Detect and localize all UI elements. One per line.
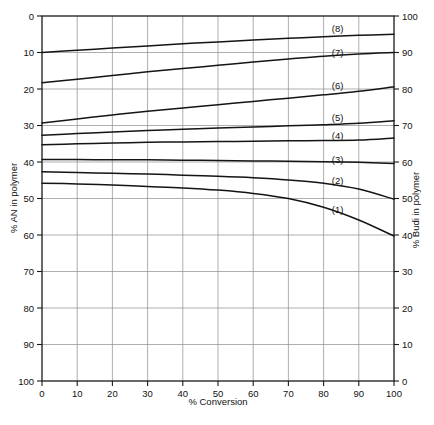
y-tick-label: 90 <box>23 339 34 350</box>
x-tick-label: 40 <box>178 388 189 399</box>
curve-label-5: (5) <box>332 112 344 123</box>
y2-tick-label: 90 <box>402 47 413 58</box>
x-tick-label: 70 <box>283 388 294 399</box>
x-tick-label: 30 <box>142 388 153 399</box>
curve-label-4: (4) <box>332 130 344 141</box>
y-axis-title: % AN in polymer <box>8 163 19 233</box>
y-tick-label: 60 <box>23 230 34 241</box>
x-tick-label: 0 <box>39 388 44 399</box>
y-tick-label: 40 <box>23 157 34 168</box>
y2-tick-label: 80 <box>402 84 413 95</box>
curve-label-3: (3) <box>332 154 344 165</box>
x-tick-label: 80 <box>318 388 329 399</box>
y-tick-label: 100 <box>18 376 34 387</box>
curve-label-2: (2) <box>332 175 344 186</box>
y2-tick-label: 0 <box>402 376 407 387</box>
curve-label-8: (8) <box>332 23 344 34</box>
x-tick-label: 10 <box>72 388 83 399</box>
y-tick-label: 0 <box>29 11 34 22</box>
x-tick-label: 20 <box>107 388 118 399</box>
y2-tick-label: 10 <box>402 339 413 350</box>
y-tick-label: 10 <box>23 47 34 58</box>
x-axis-title: % Conversion <box>188 396 247 407</box>
y-tick-label: 30 <box>23 120 34 131</box>
y2-tick-label: 30 <box>402 266 413 277</box>
x-tick-label: 60 <box>248 388 259 399</box>
y-axis-tick-labels: 0102030405060708090100 <box>18 11 34 387</box>
x-tick-label: 90 <box>354 388 365 399</box>
y2-tick-label: 70 <box>402 120 413 131</box>
grid-lines <box>42 16 394 381</box>
y-tick-label: 20 <box>23 84 34 95</box>
chart-figure: (8)(7)(6)(5)(4)(3)(2)(1) 010203040506070… <box>0 0 434 425</box>
curve-label-7: (7) <box>332 47 344 58</box>
y-tick-label: 50 <box>23 193 34 204</box>
faint-header-text <box>150 0 300 7</box>
y2-tick-label: 20 <box>402 303 413 314</box>
curve-label-1: (1) <box>332 204 344 215</box>
curve-label-6: (6) <box>332 80 344 91</box>
y-tick-label: 70 <box>23 266 34 277</box>
x-tick-label: 100 <box>386 388 402 399</box>
y2-axis-title: % Budi in polymer <box>410 172 421 249</box>
y-tick-label: 80 <box>23 303 34 314</box>
y2-tick-label: 60 <box>402 157 413 168</box>
conversion-copolymer-composition-chart: (8)(7)(6)(5)(4)(3)(2)(1) 010203040506070… <box>0 0 434 425</box>
y2-tick-label: 100 <box>402 11 418 22</box>
